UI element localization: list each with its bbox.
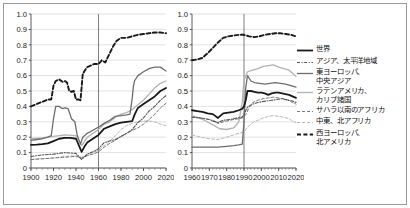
y-tick-label: 0.3: [177, 118, 188, 127]
x-tick-label: 1970: [201, 173, 218, 182]
x-tick-label: 1960: [90, 173, 107, 182]
y-tick-label: 0.8: [177, 41, 188, 50]
legend-item[interactable]: サハラ以南のアフリカ: [297, 105, 407, 116]
line-chart-left: 00.10.20.30.40.50.60.70.80.91.0190019201…: [4, 0, 174, 202]
line-chart-right: 00.10.20.30.40.50.60.70.80.91.0196019701…: [164, 0, 304, 202]
chart-legend: 世界アジア、太平洋地域東ヨーロッパ、 中央アジアラテンアメリカ、 カリブ諸国サハ…: [297, 44, 407, 147]
y-tick-label: 0.6: [177, 71, 188, 80]
legend-label: ラテンアメリカ、 カリブ諸国: [316, 86, 371, 104]
legend-item[interactable]: 東ヨーロッパ、 中央アジア: [297, 67, 407, 85]
legend-item[interactable]: ラテンアメリカ、 カリブ諸国: [297, 86, 407, 104]
x-tick-label: 2020: [288, 173, 304, 182]
y-tick-label: 0.9: [177, 25, 188, 34]
legend-label: 東ヨーロッパ、 中央アジア: [316, 67, 364, 85]
y-tick-label: 0.9: [16, 25, 27, 34]
x-tick-label: 1920: [45, 173, 62, 182]
y-tick-label: 0.2: [177, 133, 188, 142]
legend-item[interactable]: 中東、北アフリカ: [297, 116, 407, 127]
y-tick-label: 0.3: [16, 118, 27, 127]
y-tick-label: 0.8: [16, 41, 27, 50]
legend-label: アジア、太平洋地域: [316, 56, 377, 65]
x-tick-label: 2010: [270, 173, 287, 182]
legend-swatch-dashdot-gray-icon: [297, 58, 313, 67]
y-tick-label: 0.7: [177, 56, 188, 65]
figure-root: 00.10.20.30.40.50.60.70.80.91.0190019201…: [0, 0, 410, 208]
legend-swatch-solid-lightgray-icon: [297, 88, 313, 97]
x-tick-label: 2000: [135, 173, 152, 182]
legend-swatch-solid-gray-icon: [297, 69, 313, 78]
y-tick-label: 0.4: [177, 102, 188, 111]
legend-label: サハラ以南のアフリカ: [316, 105, 385, 114]
legend-label: 世界: [316, 44, 330, 53]
x-tick-label: 1990: [236, 173, 253, 182]
y-tick-label: 0.5: [177, 87, 188, 96]
y-tick-label: 1.0: [16, 10, 27, 19]
legend-swatch-dashed-gray-icon: [297, 107, 313, 116]
legend-item[interactable]: 世界: [297, 44, 407, 55]
x-tick-label: 1980: [113, 173, 130, 182]
legend-item[interactable]: 西ヨーロッパ、 北アメリカ: [297, 128, 407, 146]
chart-panel-left: 00.10.20.30.40.50.60.70.80.91.0190019201…: [4, 0, 174, 202]
y-tick-label: 0.2: [16, 133, 27, 142]
y-tick-label: 0.5: [16, 87, 27, 96]
legend-item[interactable]: アジア、太平洋地域: [297, 56, 407, 67]
legend-label: 中東、北アフリカ: [316, 116, 371, 125]
y-tick-label: 0: [184, 164, 188, 173]
x-tick-label: 2000: [253, 173, 270, 182]
y-tick-label: 1.0: [177, 10, 188, 19]
x-tick-label: 1960: [184, 173, 201, 182]
x-tick-label: 1900: [23, 173, 40, 182]
y-tick-label: 0.1: [16, 148, 27, 157]
y-tick-label: 0.1: [177, 148, 188, 157]
x-tick-label: 1980: [218, 173, 235, 182]
chart-panel-right: 00.10.20.30.40.50.60.70.80.91.0196019701…: [164, 0, 304, 202]
y-tick-label: 0.7: [16, 56, 27, 65]
legend-swatch-dashed-lightgray-icon: [297, 118, 313, 127]
y-tick-label: 0: [23, 164, 27, 173]
legend-swatch-solid-thick-black-icon: [297, 46, 313, 55]
y-tick-label: 0.4: [16, 102, 27, 111]
x-tick-label: 1940: [68, 173, 85, 182]
y-tick-label: 0.6: [16, 71, 27, 80]
legend-label: 西ヨーロッパ、 北アメリカ: [316, 128, 364, 146]
legend-swatch-dashed-thick-black-icon: [297, 130, 313, 139]
